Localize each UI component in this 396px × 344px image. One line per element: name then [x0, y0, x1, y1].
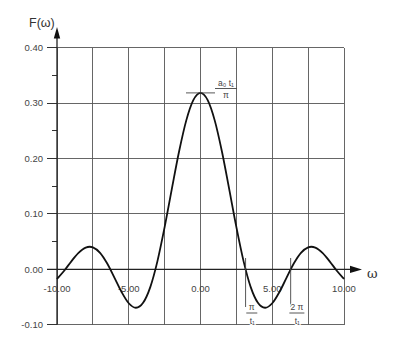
annotation-denominator: t₁ — [250, 316, 255, 326]
sinc-function-plot: 0.400.300.200.100.00-0.10-10.00-5.000.00… — [0, 0, 396, 344]
x-axis-label: ω — [367, 266, 378, 281]
annotation-numerator: a₀ t₁ — [218, 78, 234, 88]
x-tick-label: 10.00 — [332, 283, 356, 294]
x-axis-arrow-icon — [350, 266, 362, 273]
annotation-numerator: 2 π — [290, 302, 303, 312]
annotation-zero-marker: πt₁ — [246, 258, 258, 326]
axes — [47, 27, 362, 325]
annotation-denominator: π — [223, 90, 229, 100]
y-tick-label: -0.10 — [21, 319, 43, 330]
y-tick-label: 0.40 — [25, 42, 44, 53]
x-tick-label: 0.00 — [191, 283, 210, 294]
chart-figure: 0.400.300.200.100.00-0.10-10.00-5.000.00… — [0, 0, 396, 344]
y-tick-label: 0.10 — [25, 208, 44, 219]
tick-labels: 0.400.300.200.100.00-0.10-10.00-5.000.00… — [21, 42, 356, 330]
y-axis-label: F(ω) — [29, 16, 55, 30]
annotation-denominator: t₁ — [295, 316, 300, 326]
annotation-peak: a₀ t₁π — [186, 78, 237, 100]
y-tick-label: 0.20 — [25, 153, 44, 164]
x-tick-label: -10.00 — [44, 283, 71, 294]
y-tick-label: 0.30 — [25, 97, 44, 108]
y-tick-label: 0.00 — [25, 264, 44, 275]
y-axis-arrow-icon — [54, 27, 60, 39]
annotation-numerator: π — [249, 302, 255, 312]
